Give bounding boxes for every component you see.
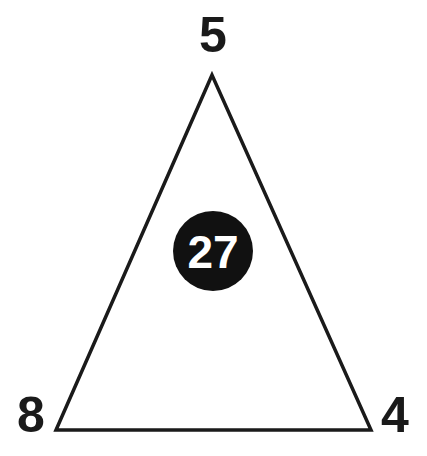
top-vertex-number: 5 — [199, 7, 227, 63]
right-vertex-number: 4 — [381, 387, 409, 443]
triangle-puzzle-diagram: 5 8 4 27 — [0, 0, 427, 456]
left-vertex-number: 8 — [17, 387, 45, 443]
center-number: 27 — [187, 226, 238, 278]
